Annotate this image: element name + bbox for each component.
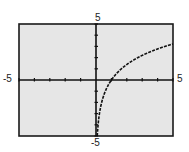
x-min-label: -5 — [3, 74, 12, 84]
y-max-label: 5 — [95, 13, 101, 23]
x-max-label: 5 — [177, 74, 183, 84]
y-min-label: -5 — [91, 138, 100, 148]
